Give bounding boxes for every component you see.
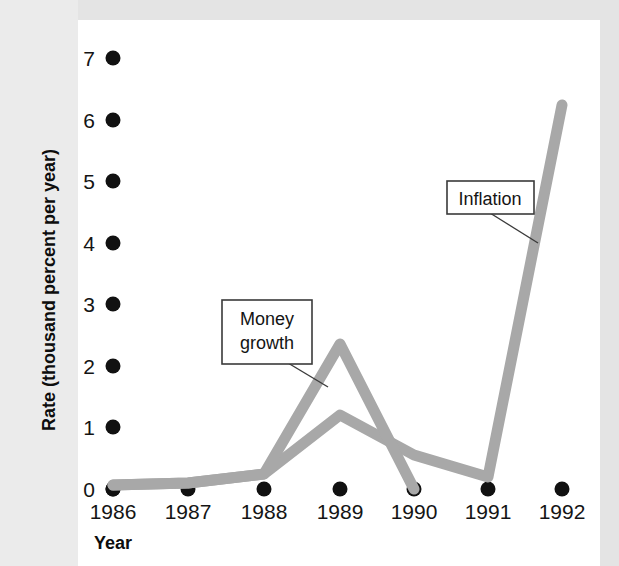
x-tick-label-1986: 1986 (90, 500, 137, 523)
x-tick-label-1990: 1990 (391, 500, 438, 523)
chart-figure: 7 6 5 4 3 2 1 0 1986 1987 1988 1989 1990 (0, 0, 619, 566)
annotation-inflation: Inflation (447, 181, 538, 243)
x-tick-dot-1989 (333, 482, 348, 497)
y-tick-label-4: 4 (83, 232, 95, 255)
y-axis-title: Rate (thousand percent per year) (39, 149, 59, 431)
y-tick-label-2: 2 (83, 355, 95, 378)
y-tick-dot-2 (106, 359, 121, 374)
y-tick-label-6: 6 (83, 109, 95, 132)
x-tick-label-1987: 1987 (165, 500, 212, 523)
x-tick-dot-1991 (481, 482, 496, 497)
x-tick-label-1988: 1988 (241, 500, 288, 523)
annotation-label-money-growth-line1: Money (240, 309, 294, 329)
y-tick-dot-5 (106, 174, 121, 189)
y-tick-dot-7 (106, 51, 121, 66)
y-tick-label-1: 1 (83, 416, 95, 439)
x-tick-dot-1992 (555, 482, 570, 497)
y-tick-dot-3 (106, 297, 121, 312)
y-tick-dot-1 (106, 420, 121, 435)
x-axis-tick-labels: 1986 1987 1988 1989 1990 1991 1992 (90, 500, 586, 523)
y-tick-label-5: 5 (83, 170, 95, 193)
y-tick-label-0: 0 (83, 478, 95, 501)
line-chart-svg: 7 6 5 4 3 2 1 0 1986 1987 1988 1989 1990 (0, 0, 619, 566)
y-tick-dot-6 (106, 113, 121, 128)
x-tick-dot-1988 (257, 482, 272, 497)
x-axis-title: Year (94, 533, 132, 553)
annotation-money-growth: Money growth (222, 300, 328, 387)
x-tick-label-1989: 1989 (317, 500, 364, 523)
annotation-label-money-growth-line2: growth (240, 333, 294, 353)
y-axis-tick-labels: 7 6 5 4 3 2 1 0 (83, 47, 95, 501)
y-tick-label-7: 7 (83, 47, 95, 70)
y-axis-tick-markers (106, 51, 121, 497)
annotation-leader-line-inflation (490, 213, 538, 243)
series-line-inflation (113, 105, 562, 485)
y-tick-label-3: 3 (83, 293, 95, 316)
annotation-label-inflation: Inflation (458, 189, 521, 209)
series-line-money-growth (113, 344, 414, 489)
x-tick-label-1991: 1991 (465, 500, 512, 523)
y-tick-dot-4 (106, 236, 121, 251)
x-tick-label-1992: 1992 (539, 500, 586, 523)
